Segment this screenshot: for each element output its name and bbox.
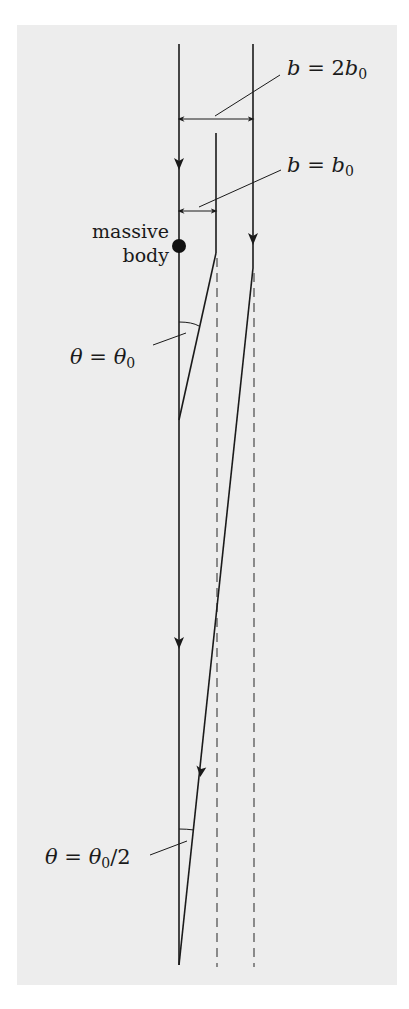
label-b-outer: b = 2b0 xyxy=(287,58,367,81)
label-b-inner: b = b0 xyxy=(287,155,354,178)
down-arrow-icon xyxy=(195,765,206,777)
massive-body-dot xyxy=(172,239,186,253)
label-theta0: θ = θ0 xyxy=(70,347,135,370)
outer-ray xyxy=(179,44,258,967)
dimension-inner xyxy=(181,170,281,211)
dimension-outer xyxy=(181,75,280,119)
angle-theta0 xyxy=(153,322,199,345)
reference-line xyxy=(174,44,184,965)
angle-theta0-half xyxy=(150,829,194,855)
label-theta0-half: θ = θ0/2 xyxy=(45,847,131,870)
label-massive-body: massive body xyxy=(73,222,169,265)
